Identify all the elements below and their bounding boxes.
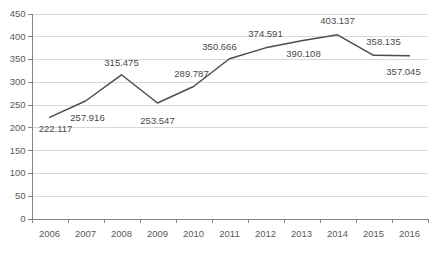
data-point-labels: 222.117257.916315.475253.547289.787350.6… xyxy=(39,15,421,134)
x-axis-label-2015: 2015 xyxy=(363,228,384,239)
y-axis-label-200: 200 xyxy=(10,122,26,133)
data-label-2016: 357.045 xyxy=(386,66,420,77)
x-axis-label-2006: 2006 xyxy=(39,228,60,239)
chart-canvas: 050100150200250300350400450 200620072008… xyxy=(0,0,438,253)
data-label-2015: 358.135 xyxy=(366,36,400,47)
data-label-2007: 257.916 xyxy=(70,112,104,123)
data-label-2014: 403.137 xyxy=(320,15,354,26)
y-axis xyxy=(28,14,32,220)
x-axis-tick-labels: 2006200720082009201020112012201320142015… xyxy=(39,228,420,239)
data-label-2008: 315.475 xyxy=(104,57,138,68)
data-label-2011: 350.666 xyxy=(202,41,236,52)
data-label-2006: 222.117 xyxy=(39,123,73,134)
x-axis-label-2009: 2009 xyxy=(147,228,168,239)
y-axis-label-300: 300 xyxy=(10,76,26,87)
y-axis-label-50: 50 xyxy=(15,190,26,201)
data-label-2013: 390.108 xyxy=(286,48,320,59)
x-axis-label-2010: 2010 xyxy=(183,228,204,239)
y-axis-label-450: 450 xyxy=(10,8,26,19)
y-axis-label-150: 150 xyxy=(10,145,26,156)
y-axis-label-0: 0 xyxy=(20,213,25,224)
y-axis-label-100: 100 xyxy=(10,167,26,178)
x-axis-label-2014: 2014 xyxy=(327,228,348,239)
y-axis-label-350: 350 xyxy=(10,53,26,64)
y-axis-label-250: 250 xyxy=(10,99,26,110)
x-axis-label-2011: 2011 xyxy=(219,228,239,239)
y-axis-tick-labels: 050100150200250300350400450 xyxy=(10,8,26,224)
x-axis-label-2012: 2012 xyxy=(255,228,276,239)
x-axis-label-2013: 2013 xyxy=(291,228,312,239)
x-axis-label-2007: 2007 xyxy=(75,228,96,239)
data-label-2012: 374.591 xyxy=(248,28,282,39)
line-chart: 050100150200250300350400450 200620072008… xyxy=(0,0,438,253)
data-label-2009: 253.547 xyxy=(140,115,174,126)
data-label-2010: 289.787 xyxy=(174,68,208,79)
y-axis-label-400: 400 xyxy=(10,31,26,42)
x-axis-label-2008: 2008 xyxy=(111,228,132,239)
x-axis-label-2016: 2016 xyxy=(399,228,420,239)
